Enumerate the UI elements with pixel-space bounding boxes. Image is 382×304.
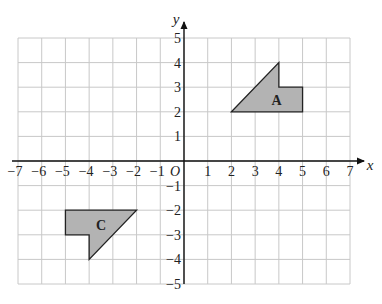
x-tick-label: 2 — [228, 164, 235, 179]
x-tick-label: −6 — [31, 164, 46, 179]
x-tick-label: 1 — [204, 164, 211, 179]
y-tick-label: 3 — [174, 80, 181, 95]
x-tick-label: 5 — [299, 164, 306, 179]
y-tick-label: 1 — [174, 129, 181, 144]
x-axis-label: x — [366, 157, 374, 173]
shape-c-label: C — [96, 218, 106, 233]
x-tick-label: −2 — [126, 164, 141, 179]
x-tick-label: −7 — [8, 164, 23, 179]
x-tick-label: 7 — [347, 164, 354, 179]
x-tick-label: 4 — [275, 164, 282, 179]
y-tick-label: 5 — [174, 31, 181, 46]
origin-label: O — [170, 164, 180, 179]
tick-labels: −7−6−5−4−3−2−1123456754321−1−2−3−4−5Oxy — [8, 11, 374, 292]
x-tick-label: 3 — [252, 164, 259, 179]
x-tick-label: 6 — [323, 164, 330, 179]
shape-a-label: A — [271, 93, 282, 108]
x-tick-label: −1 — [150, 164, 165, 179]
y-tick-label: 4 — [174, 56, 181, 71]
x-tick-label: −3 — [102, 164, 117, 179]
y-axis-label: y — [171, 11, 180, 27]
y-tick-label: −1 — [166, 179, 181, 194]
axes-layer — [12, 22, 364, 284]
coordinate-grid-diagram: AC −7−6−5−4−3−2−1123456754321−1−2−3−4−5O… — [0, 0, 382, 304]
y-tick-label: −2 — [166, 203, 181, 218]
y-tick-label: 2 — [174, 105, 181, 120]
x-tick-label: −5 — [55, 164, 70, 179]
coordinate-plane: AC −7−6−5−4−3−2−1123456754321−1−2−3−4−5O… — [0, 0, 382, 304]
y-tick-label: −3 — [166, 228, 181, 243]
y-tick-label: −4 — [166, 252, 181, 267]
y-tick-label: −5 — [166, 277, 181, 292]
x-tick-label: −4 — [79, 164, 94, 179]
